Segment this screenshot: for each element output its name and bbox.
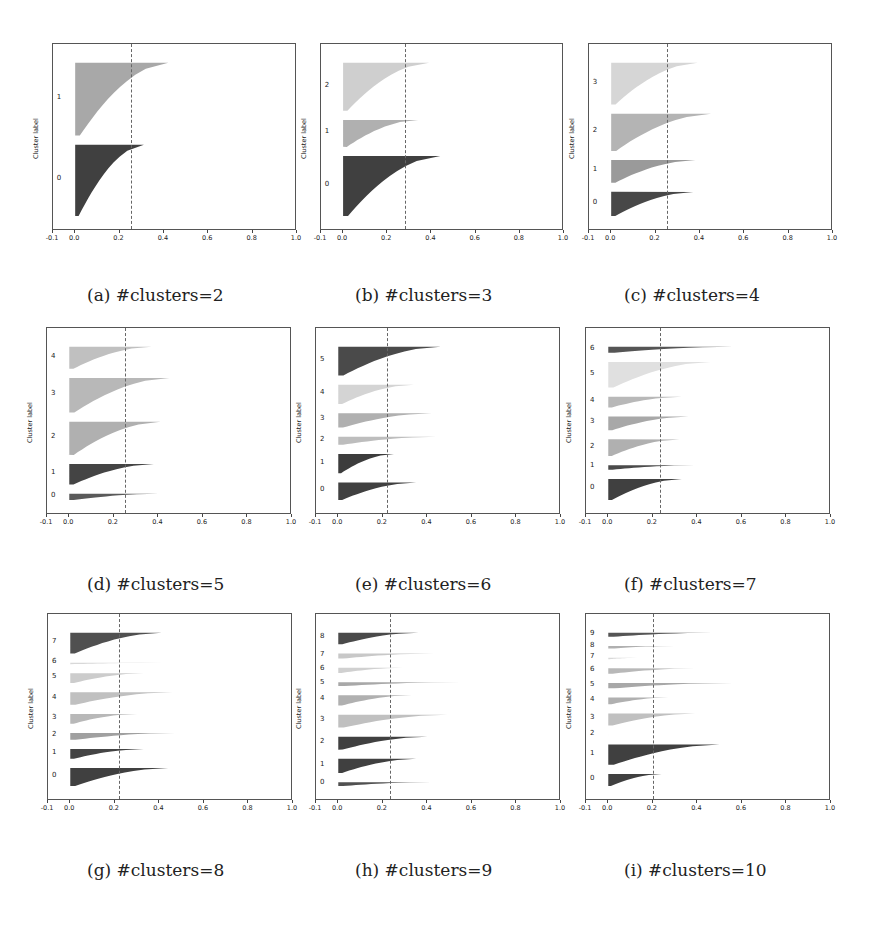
cluster-silhouette-0	[586, 774, 662, 786]
mean-silhouette-line	[653, 614, 654, 799]
cluster-silhouette-2	[611, 114, 711, 151]
cluster-label: 2	[593, 126, 597, 134]
x-tick-mark	[46, 514, 47, 517]
x-tick-label: 0.6	[198, 804, 208, 812]
x-tick-mark	[832, 230, 833, 233]
plot-area	[315, 327, 560, 514]
x-tick-label: 0.0	[602, 804, 612, 812]
cluster-silhouette-3	[608, 713, 695, 725]
mean-silhouette-line	[387, 328, 388, 513]
cluster-silhouette-1	[70, 749, 144, 759]
cluster-label: 6	[590, 665, 594, 673]
cluster-label: 5	[320, 678, 324, 686]
cluster-label: 0	[57, 174, 61, 182]
x-tick-label: 0.4	[158, 234, 168, 242]
x-tick-label: -0.1	[40, 518, 53, 526]
x-tick-mark	[386, 230, 387, 233]
x-tick-mark	[785, 800, 786, 803]
cluster-silhouette-0	[69, 494, 158, 500]
cluster-silhouette-1	[69, 464, 154, 484]
x-tick-label: 0.8	[510, 518, 520, 526]
cluster-label: 6	[590, 344, 594, 352]
subfigure-caption: (i) #clusters=10	[624, 860, 767, 880]
x-tick-label: 1.0	[558, 234, 568, 242]
x-tick-mark	[652, 514, 653, 517]
cluster-label: 0	[590, 483, 594, 491]
silhouette-shapes	[586, 614, 831, 801]
x-tick-label: 0.4	[421, 804, 431, 812]
x-tick-mark	[337, 514, 338, 517]
x-tick-label: 0.8	[242, 804, 252, 812]
x-tick-mark	[382, 800, 383, 803]
x-tick-label: 0.2	[377, 518, 387, 526]
x-tick-label: 1.0	[825, 804, 835, 812]
mean-silhouette-line	[390, 614, 391, 799]
x-tick-mark	[655, 230, 656, 233]
cluster-label: 4	[320, 388, 324, 396]
cluster-label: 1	[51, 468, 55, 476]
cluster-silhouette-4	[608, 397, 682, 408]
x-tick-mark	[426, 514, 427, 517]
plot-area	[588, 43, 832, 230]
x-tick-mark	[696, 514, 697, 517]
cluster-silhouette-2	[343, 63, 429, 111]
plot-area	[52, 43, 296, 230]
x-tick-label: 0.2	[109, 804, 119, 812]
cluster-label: 2	[52, 730, 56, 738]
cluster-label: 2	[51, 432, 55, 440]
cluster-label: 3	[590, 417, 594, 425]
subfigure-caption: (a) #clusters=2	[87, 285, 223, 305]
x-tick-label: -0.1	[309, 518, 322, 526]
x-tick-label: 0.0	[602, 518, 612, 526]
cluster-silhouette-6	[608, 347, 733, 353]
x-tick-mark	[246, 514, 247, 517]
x-tick-mark	[47, 800, 48, 803]
cluster-label: 7	[590, 652, 594, 660]
x-tick-mark	[588, 230, 589, 233]
x-tick-label: -0.1	[579, 804, 592, 812]
cluster-label: 2	[325, 81, 329, 89]
cluster-silhouette-1	[608, 465, 695, 470]
cluster-label: 8	[590, 641, 594, 649]
cluster-label: 1	[52, 748, 56, 756]
cluster-label: 5	[320, 355, 324, 363]
cluster-label: 0	[320, 778, 324, 786]
x-tick-label: 0.2	[647, 804, 657, 812]
subfigure-caption: (c) #clusters=4	[624, 285, 760, 305]
x-tick-mark	[426, 800, 427, 803]
cluster-silhouette-3	[336, 413, 432, 427]
x-tick-label: 0.6	[197, 518, 207, 526]
x-tick-label: 0.2	[649, 234, 659, 242]
subfigure-caption: (e) #clusters=6	[355, 574, 491, 594]
cluster-label: 3	[590, 713, 594, 721]
cluster-label: 5	[590, 369, 594, 377]
x-tick-mark	[52, 230, 53, 233]
x-tick-label: 0.8	[780, 518, 790, 526]
cluster-silhouette-1	[608, 745, 719, 765]
x-tick-label: 0.0	[605, 234, 615, 242]
cluster-silhouette-1	[611, 160, 695, 183]
mean-silhouette-line	[405, 44, 406, 229]
cluster-silhouette-5	[586, 683, 733, 688]
cluster-silhouette-4	[48, 692, 173, 705]
x-tick-mark	[207, 230, 208, 233]
cluster-label: 2	[320, 435, 324, 443]
x-tick-mark	[741, 514, 742, 517]
x-tick-mark	[607, 514, 608, 517]
x-tick-label: 0.6	[736, 804, 746, 812]
cluster-silhouette-3	[68, 714, 137, 724]
x-tick-label: 0.6	[469, 234, 479, 242]
x-tick-mark	[741, 800, 742, 803]
plot-area	[47, 613, 292, 800]
x-tick-label: 0.2	[108, 518, 118, 526]
x-tick-label: 0.6	[202, 234, 212, 242]
cluster-label: 8	[320, 632, 324, 640]
x-tick-mark	[471, 800, 472, 803]
x-tick-label: 1.0	[555, 518, 565, 526]
x-tick-mark	[74, 230, 75, 233]
x-tick-mark	[119, 230, 120, 233]
silhouette-shapes	[316, 614, 561, 801]
plot-area	[320, 43, 563, 230]
cluster-label: 4	[320, 694, 324, 702]
cluster-label: 0	[320, 485, 324, 493]
